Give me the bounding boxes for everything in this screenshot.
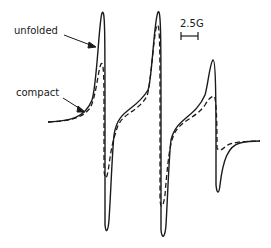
compact-annotation-arrow (63, 98, 85, 112)
unfolded-label: unfolded (14, 25, 58, 36)
compact-label: compact (16, 87, 59, 98)
scale-bar-label: 2.5G (180, 18, 204, 29)
epr-spectrum-chart: unfolded compact 2.5G (0, 0, 271, 248)
unfolded-annotation-arrow (64, 35, 96, 48)
scale-bar (181, 32, 198, 40)
